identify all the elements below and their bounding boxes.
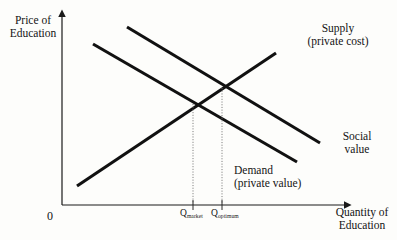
demand-curve-label: Demand (private value) <box>234 164 374 190</box>
demand-label-line2: (private value) <box>234 177 374 190</box>
demand-label-line1: Demand <box>234 164 273 176</box>
supply-label-line2: (private cost) <box>288 35 388 48</box>
q-optimum-subscript: optimum <box>218 213 239 219</box>
y-axis-label-line1: Price of <box>15 14 51 26</box>
origin-label: 0 <box>47 210 53 223</box>
q-market-subscript: market <box>187 213 203 219</box>
q-optimum-base: Q <box>211 208 218 218</box>
social-value-curve-label: Social value <box>325 130 389 156</box>
y-axis-label-line2: Education <box>4 27 62 40</box>
x-axis-label: Quantity of Education <box>330 206 394 232</box>
supply-label-line1: Supply <box>322 22 355 34</box>
demand-curve <box>93 44 297 162</box>
q-optimum-label: Qoptimum <box>211 208 239 218</box>
x-axis-label-line1: Quantity of <box>336 206 389 218</box>
education-externality-diagram: Price of Education Quantity of Education… <box>0 0 397 240</box>
social-value-label-line2: value <box>325 143 389 156</box>
q-market-base: Q <box>180 208 187 218</box>
supply-curve-label: Supply (private cost) <box>288 22 388 48</box>
y-axis-label: Price of Education <box>4 14 62 40</box>
q-market-label: Qmarket <box>180 208 203 218</box>
social-value-label-line1: Social <box>343 130 372 142</box>
x-axis-label-line2: Education <box>330 219 394 232</box>
